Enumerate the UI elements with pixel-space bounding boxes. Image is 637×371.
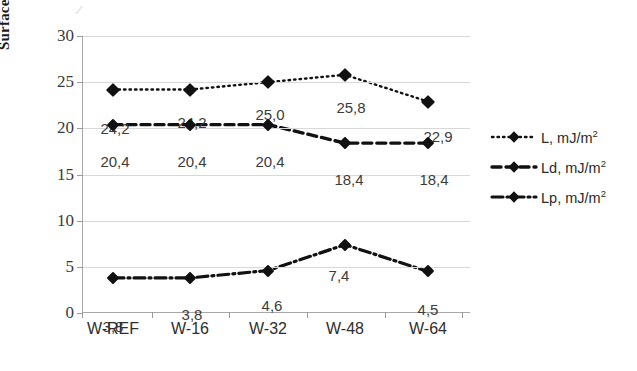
y-tick-label: 5 <box>36 257 74 277</box>
x-category-label: W-48 <box>306 320 384 338</box>
x-category-label: W-16 <box>151 320 229 338</box>
gridline <box>82 221 470 222</box>
y-tick-mark <box>77 221 83 222</box>
x-tick-mark <box>462 312 463 318</box>
data-label-Ld: 18,4 <box>334 171 363 188</box>
legend-label-text: Ld, mJ/m <box>541 160 601 176</box>
x-axis-category-labels: W-REFW-16W-32W-48W-64 <box>82 320 470 346</box>
gridline <box>82 36 470 37</box>
x-tick-mark <box>229 312 230 318</box>
y-tick-label: 15 <box>36 165 74 185</box>
legend-item-L[interactable]: L, mJ/m2 <box>492 122 632 152</box>
gridline <box>82 175 470 176</box>
y-tick-label: 20 <box>36 118 74 138</box>
legend-label-superscript: 2 <box>601 188 606 199</box>
legend-label-superscript: 2 <box>601 158 606 169</box>
x-category-label: W-32 <box>229 320 307 338</box>
gridline <box>82 128 470 129</box>
x-tick-mark <box>385 312 386 318</box>
gridline <box>82 267 470 268</box>
chart-figure: ⁄ Surface energy [mJ/m2] 302520151050 24… <box>0 0 637 371</box>
y-tick-mark <box>77 267 83 268</box>
plot-area: 24,224,225,025,822,920,420,420,418,418,4… <box>82 36 470 313</box>
y-tick-label: 10 <box>36 211 74 231</box>
data-label-Lp: 4,6 <box>262 297 283 314</box>
scan-artifact: ⁄ <box>78 2 90 12</box>
data-label-Ld: 20,4 <box>177 153 206 170</box>
y-axis-tick-labels: 302520151050 <box>36 36 76 313</box>
y-tick-mark <box>77 82 83 83</box>
y-axis-title-text: Surface energy [mJ/m <box>0 0 12 50</box>
legend-key-Lp <box>492 191 536 203</box>
y-tick-label: 30 <box>36 26 74 46</box>
data-label-Ld: 20,4 <box>100 153 129 170</box>
y-tick-mark <box>77 175 83 176</box>
data-label-Lp: 4,5 <box>418 301 439 318</box>
legend-label-superscript: 2 <box>593 128 598 139</box>
y-tick-label: 0 <box>36 303 74 323</box>
legend-label-text: L, mJ/m <box>541 130 593 146</box>
data-label-Ld: 18,4 <box>419 171 448 188</box>
gridline <box>82 82 470 83</box>
x-category-label: W-REF <box>74 320 152 338</box>
legend-item-Ld[interactable]: Ld, mJ/m2 <box>492 152 632 182</box>
x-category-label: W-64 <box>389 320 467 338</box>
data-label-Ld: 20,4 <box>255 153 284 170</box>
y-axis-title: Surface energy [mJ/m2] <box>0 0 13 50</box>
legend-label-text: Lp, mJ/m <box>541 190 601 206</box>
legend-label-Ld: Ld, mJ/m2 <box>541 158 606 176</box>
legend-label-Lp: Lp, mJ/m2 <box>541 188 606 206</box>
x-tick-mark <box>152 312 153 318</box>
y-tick-mark <box>77 128 83 129</box>
legend-key-Ld <box>492 161 536 173</box>
x-tick-mark <box>82 312 83 318</box>
legend-item-Lp[interactable]: Lp, mJ/m2 <box>492 182 632 212</box>
legend-key-L <box>492 131 536 143</box>
y-tick-label: 25 <box>36 72 74 92</box>
legend-label-L: L, mJ/m2 <box>541 128 598 146</box>
data-label-L: 25,8 <box>336 99 365 116</box>
chart-legend: L, mJ/m2Ld, mJ/m2Lp, mJ/m2 <box>492 122 632 212</box>
data-label-Lp: 7,4 <box>329 267 350 284</box>
y-tick-mark <box>77 36 83 37</box>
x-tick-mark <box>307 312 308 318</box>
